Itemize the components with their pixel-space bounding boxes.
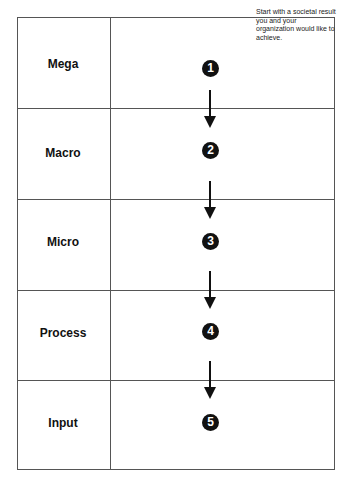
instruction-note: Start with a societal result you and you…: [256, 8, 336, 42]
step-badge-5: 5: [202, 414, 219, 431]
level-label-process: Process: [17, 326, 109, 340]
level-label-micro: Micro: [17, 235, 109, 249]
level-label-input: Input: [17, 416, 109, 430]
down-arrow-icon: [204, 90, 216, 128]
step-badge-4: 4: [202, 323, 219, 340]
down-arrow-icon: [204, 271, 216, 309]
level-label-macro: Macro: [17, 146, 109, 160]
step-badge-1: 1: [202, 60, 219, 77]
down-arrow-icon: [204, 361, 216, 399]
down-arrow-icon: [204, 181, 216, 219]
step-badge-3: 3: [202, 233, 219, 250]
level-label-mega: Mega: [17, 57, 109, 71]
step-badge-2: 2: [202, 142, 219, 159]
